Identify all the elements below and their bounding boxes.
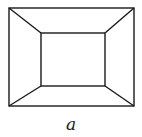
edge-bottom-right (105, 86, 134, 106)
inner-rectangle (41, 33, 105, 86)
figure-label: a (0, 114, 142, 134)
edge-top-left (9, 8, 41, 33)
edge-top-right (105, 8, 134, 33)
edge-bottom-left (9, 86, 41, 106)
